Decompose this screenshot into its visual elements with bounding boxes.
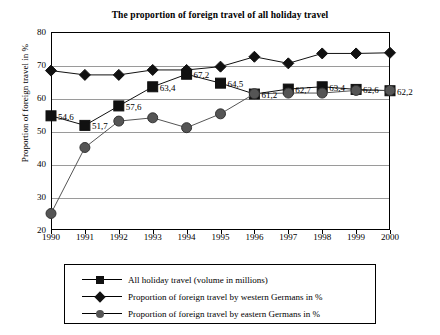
data-point-label: 62,7 — [295, 85, 311, 95]
legend-item-eastern-germans: Proportion of foreign travel by eastern … — [65, 305, 375, 322]
data-point-label: 62,2 — [397, 87, 413, 97]
data-point-label: 51,7 — [92, 121, 108, 131]
data-point-label: 63,4 — [329, 83, 345, 93]
legend-marker-diamond — [82, 291, 122, 303]
legend-label-western-germans: Proportion of foreign travel by western … — [122, 292, 322, 302]
data-point-label: 67,2 — [194, 70, 210, 80]
data-point-label: 64,5 — [228, 79, 244, 89]
legend-marker-circle — [82, 308, 122, 320]
data-point-label: 54,6 — [58, 112, 74, 122]
data-point-label: 61,2 — [261, 90, 277, 100]
series-diamond — [46, 47, 396, 80]
chart-legend: All holiday travel (volume in millions) … — [64, 264, 376, 324]
data-point-label: 57,6 — [126, 102, 142, 112]
legend-item-all-holiday-travel: All holiday travel (volume in millions) — [65, 271, 375, 288]
data-point-label: 62,6 — [363, 85, 379, 95]
legend-label-eastern-germans: Proportion of foreign travel by eastern … — [122, 309, 320, 319]
legend-item-western-germans: Proportion of foreign travel by western … — [65, 288, 375, 305]
legend-label-all-holiday-travel: All holiday travel (volume in millions) — [122, 275, 268, 285]
legend-marker-square — [82, 274, 122, 286]
data-point-label: 63,4 — [160, 83, 176, 93]
series-circle — [46, 85, 395, 218]
chart-figure: The proportion of foreign travel of all … — [0, 0, 440, 335]
